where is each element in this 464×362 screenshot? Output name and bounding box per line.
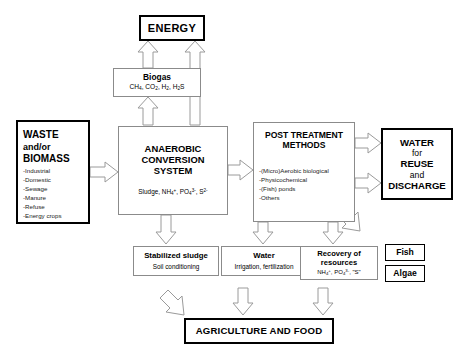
water-reuse-line2: for (412, 148, 422, 158)
post-line2: METHODS (254, 141, 354, 151)
arrow-post-to-water-product (253, 222, 273, 244)
arrow-post-to-water-lower (355, 173, 381, 193)
anaerobic-formula: Sludge, NH4+, PO43-, S2- (138, 188, 207, 197)
node-water-product: Water Irrigation, fertilization (221, 246, 307, 276)
water-reuse-line5: DISCHARGE (388, 180, 446, 191)
algae-label: Algae (393, 269, 416, 279)
stabilized-sludge-sub: Soil conditioning (153, 263, 200, 271)
post-item-2: -(Fish) ponds (254, 185, 354, 194)
waste-line3: BIOMASS (18, 153, 88, 165)
arrow-post-to-recovery (323, 222, 343, 244)
recovery-title2: resources (321, 259, 357, 268)
node-stabilized-sludge: Stabilized sludge Soil conditioning (133, 246, 219, 276)
node-fish: Fish (385, 244, 425, 261)
arrow-sludge-to-agriculture (160, 290, 184, 315)
node-anaerobic-conversion-system: ANAEROBIC CONVERSION SYSTEM Sludge, NH4+… (118, 126, 228, 215)
node-waste-biomass: WASTE and/or BIOMASS -Industrial -Domest… (16, 120, 90, 224)
waste-item-0: -Industrial (18, 167, 88, 176)
recovery-formula: NH4+, PO43-, "S" (317, 268, 360, 276)
water-reuse-line1: WATER (400, 137, 434, 148)
node-biogas: Biogas CH4, CO2, H2, H2S (113, 68, 201, 97)
arrow-post-to-water-upper (355, 133, 381, 153)
water-reuse-line3: REUSE (400, 158, 433, 169)
water-product-sub: Irrigation, fertilization (235, 263, 294, 271)
water-product-title: Water (253, 252, 274, 261)
node-energy: ENERGY (139, 15, 205, 41)
arrow-water-to-agriculture (233, 288, 253, 315)
waste-item-2: -Sewage (18, 185, 88, 194)
waste-item-5: -Energy crops (18, 212, 88, 221)
arrow-waste-to-anaerobic (90, 162, 118, 182)
stabilized-sludge-title: Stabilized sludge (144, 252, 208, 261)
waste-line2: and/or (18, 142, 88, 152)
waste-line1: WASTE (18, 129, 88, 141)
diagram-canvas: ENERGY Biogas CH4, CO2, H2, H2S WASTE an… (0, 0, 464, 362)
biogas-title: Biogas (143, 73, 171, 83)
arrow-anaerobic-to-sludge (156, 215, 176, 244)
energy-label: ENERGY (148, 22, 196, 35)
node-water-reuse-discharge: WATER for REUSE and DISCHARGE (381, 128, 453, 200)
fish-label: Fish (396, 248, 414, 258)
arrow-biogas-to-energy (138, 41, 158, 68)
post-item-3: -Others (254, 194, 354, 203)
post-item-0: -(Micro)Aerobic biological (254, 167, 354, 176)
node-agriculture-and-food: AGRICULTURE AND FOOD (184, 318, 334, 344)
water-reuse-line4: and (410, 170, 424, 180)
arrow-anaerobic-to-biogas (138, 97, 158, 125)
biogas-formula: CH4, CO2, H2, H2S (130, 83, 185, 92)
node-post-treatment-methods: POST TREATMENT METHODS -(Micro)Aerobic b… (253, 122, 355, 222)
arrow-anaerobic-to-post (228, 160, 253, 180)
waste-item-4: -Refuse (18, 203, 88, 212)
anaerobic-line3: SYSTEM (154, 166, 193, 177)
node-recovery-of-resources: Recovery of resources NH4+, PO43-, "S" (300, 246, 378, 280)
post-item-1: -Physicochemical (254, 176, 354, 185)
node-algae: Algae (385, 265, 425, 282)
arrow-recovery-to-agriculture (313, 288, 333, 315)
waste-item-3: -Manure (18, 194, 88, 203)
waste-item-1: -Domestic (18, 176, 88, 185)
agriculture-label: AGRICULTURE AND FOOD (196, 325, 323, 336)
